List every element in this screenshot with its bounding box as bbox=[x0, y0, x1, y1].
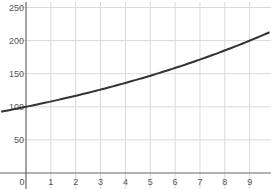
x-tick-label: 2 bbox=[73, 177, 78, 187]
x-tick-label: 7 bbox=[197, 177, 202, 187]
y-tick-label: 250 bbox=[9, 3, 24, 13]
x-tick-label: 3 bbox=[98, 177, 103, 187]
y-tick-label: 50 bbox=[14, 135, 24, 145]
y-tick-label: 150 bbox=[9, 69, 24, 79]
tick-labels: 012345678950100150200250 bbox=[9, 3, 252, 188]
x-tick-label: 0 bbox=[19, 177, 24, 187]
x-tick-label: 8 bbox=[222, 177, 227, 187]
axes bbox=[0, 2, 271, 189]
x-tick-label: 9 bbox=[247, 177, 252, 187]
x-tick-label: 6 bbox=[173, 177, 178, 187]
y-tick-label: 200 bbox=[9, 36, 24, 46]
x-tick-label: 5 bbox=[148, 177, 153, 187]
x-tick-label: 1 bbox=[48, 177, 53, 187]
exponential-line-chart: 012345678950100150200250 bbox=[0, 0, 271, 189]
x-tick-label: 4 bbox=[123, 177, 128, 187]
grid-lines bbox=[18, 2, 271, 189]
data-curve bbox=[1, 32, 269, 111]
